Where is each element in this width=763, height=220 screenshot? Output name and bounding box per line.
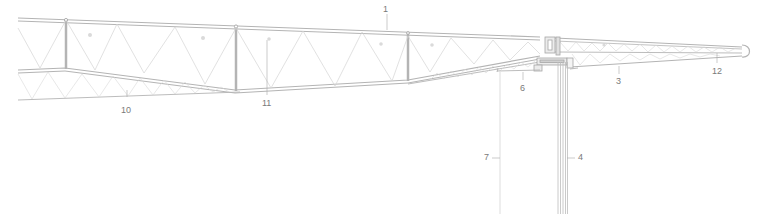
callout-6: 6: [520, 84, 525, 93]
section-drawing: [0, 0, 763, 220]
glazing-mullion: [558, 62, 568, 214]
top-chord: [18, 18, 540, 40]
bottom-chord: [18, 56, 540, 93]
cantilever-wing: [555, 38, 750, 67]
callout-12: 12: [712, 67, 722, 76]
callout-11: 11: [262, 99, 271, 108]
callout-7: 7: [484, 153, 489, 162]
callout-3: 3: [616, 77, 621, 86]
callout-10: 10: [121, 106, 131, 115]
callout-4: 4: [578, 153, 583, 162]
callout-1: 1: [383, 5, 388, 14]
